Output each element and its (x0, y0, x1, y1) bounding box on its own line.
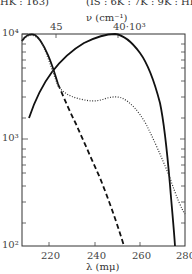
x-axis-ticks (49, 34, 140, 246)
y-tick-10e2: 10² (2, 240, 19, 250)
x-tick-240: 240 (87, 251, 106, 261)
x-tick-260: 260 (132, 251, 151, 261)
series-dashed (58, 84, 124, 246)
y-axis-ticks (22, 34, 185, 223)
x-axis-label: λ (mμ) (86, 262, 119, 272)
top-tick-40000: 40·10³ (113, 22, 146, 32)
top-tick-45: 45 (50, 22, 63, 32)
plot-frame (22, 34, 185, 246)
y-tick-10e3: 10³ (2, 133, 19, 143)
chart-plot (0, 0, 192, 274)
x-tick-220: 220 (41, 251, 60, 261)
series-solid-left-peak (22, 34, 58, 84)
y-tick-10e4: 10⁴ (2, 28, 19, 38)
x-tick-280: 280 (176, 251, 192, 261)
